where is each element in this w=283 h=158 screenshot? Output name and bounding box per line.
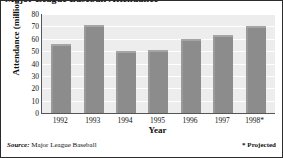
projected-note: * Projected [242, 141, 276, 149]
source-label: Source: [7, 141, 30, 149]
x-axis-tick: 1995 [141, 116, 173, 125]
y-axis-tick: 80 [32, 11, 40, 18]
bar-slot [110, 14, 142, 113]
bar-slot [45, 14, 77, 113]
x-axis-tick-labels: 1992199319941995199619971998* [41, 116, 274, 125]
y-axis-tick: 70 [32, 23, 40, 30]
bar-1997[interactable] [213, 35, 233, 113]
source-value: Major League Baseball [30, 141, 97, 149]
chart-figure: Major League Baseball Attendance Attenda… [0, 0, 283, 158]
bar-slot [142, 14, 174, 113]
x-axis-tick: 1997 [206, 116, 238, 125]
bar-slot [207, 14, 239, 113]
source-note: Source: Major League Baseball [7, 141, 97, 149]
bar-1992[interactable] [51, 44, 71, 113]
y-axis-title: Attendance (millions) [11, 0, 21, 79]
x-axis-tick: 1992 [44, 116, 76, 125]
y-axis-tick: 30 [32, 72, 40, 79]
page-title: Major League Baseball Attendance [5, 0, 158, 4]
x-axis-tick: 1993 [76, 116, 108, 125]
x-axis-tick: 1998* [239, 116, 271, 125]
bar-1994[interactable] [116, 51, 136, 113]
bar-1993[interactable] [84, 25, 104, 113]
bar-1996[interactable] [181, 39, 201, 113]
y-axis-tick: 20 [32, 85, 40, 92]
bar-series [42, 14, 275, 113]
figure-footer: Source: Major League Baseball * Projecte… [7, 141, 276, 149]
x-axis-title: Year [41, 125, 274, 135]
bar-1995[interactable] [148, 50, 168, 113]
y-axis-tick-labels: 80706050403020100 [23, 14, 39, 113]
y-axis-tick: 0 [35, 110, 39, 117]
y-axis-tick: 40 [32, 60, 40, 67]
x-axis-tick: 1996 [174, 116, 206, 125]
bar-slot [77, 14, 109, 113]
bar-slot [175, 14, 207, 113]
bar-1998[interactable] [246, 26, 266, 113]
y-axis-tick: 60 [32, 35, 40, 42]
x-axis-tick: 1994 [109, 116, 141, 125]
y-axis-tick: 10 [32, 97, 40, 104]
plot-area [41, 14, 275, 114]
bar-slot [240, 14, 272, 113]
y-axis-tick: 50 [32, 48, 40, 55]
